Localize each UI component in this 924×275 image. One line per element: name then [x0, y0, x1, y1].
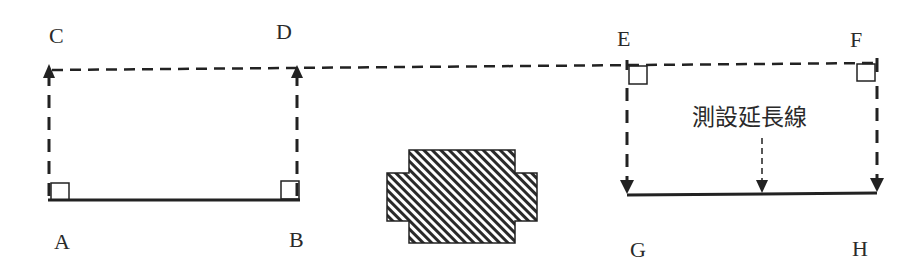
right-angle-marker-a [51, 183, 69, 200]
left-figure [43, 64, 303, 200]
label-a: A [54, 229, 70, 254]
label-e: E [617, 26, 630, 51]
extension-line-cdef [52, 63, 876, 70]
label-f: F [850, 27, 862, 52]
right-angle-marker-e [629, 66, 647, 84]
obstacle-hatched [387, 150, 537, 243]
baseline-gh [627, 193, 877, 195]
label-c: C [49, 23, 64, 48]
label-g: G [630, 237, 646, 262]
annotation-extension-line: 測設延長線 [692, 104, 807, 130]
annotation-arrow-head [756, 180, 768, 193]
arrow-head-h [870, 178, 884, 192]
arrow-head-g [620, 180, 634, 194]
label-h: H [852, 236, 868, 261]
survey-extension-diagram: C D A B E F G H 測設延長線 [0, 0, 924, 275]
right-angle-marker-f [857, 64, 875, 81]
label-b: B [289, 227, 304, 252]
label-d: D [276, 19, 292, 44]
